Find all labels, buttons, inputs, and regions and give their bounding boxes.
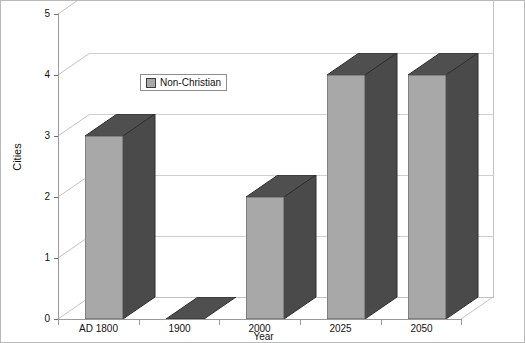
bar-2000 <box>246 197 284 319</box>
bar-2050 <box>408 75 446 319</box>
bar-3d-shape <box>85 114 160 319</box>
y-tickmark-3 <box>54 136 58 137</box>
y-axis-title: Cities <box>11 127 23 187</box>
y-axis-line <box>58 14 59 320</box>
y-tick-label-4: 4 <box>32 69 50 80</box>
y-tickmark-4 <box>54 75 58 76</box>
y-tick-label-1: 1 <box>32 252 50 263</box>
chart-legend: Non-Christian <box>140 74 227 91</box>
bar-3d-shape <box>327 53 402 319</box>
bar-ad-1800 <box>85 136 123 319</box>
x-axis-title: Year <box>1 331 525 342</box>
legend-swatch-non-christian <box>146 78 156 88</box>
bar-3d-shape <box>408 53 483 319</box>
y-tickmark-2 <box>54 197 58 198</box>
legend-label-non-christian: Non-Christian <box>160 77 221 88</box>
y-tickmark-5 <box>54 14 58 15</box>
wall-right-edge <box>493 0 494 297</box>
y-tick-label-0: 0 <box>32 313 50 324</box>
chart-frame: 5 4 3 2 1 0 Cities Non-Christian <box>0 0 525 343</box>
bar-3d-shape <box>246 175 321 319</box>
y-tickmark-1 <box>54 258 58 259</box>
bar-chart-plot-area: 5 4 3 2 1 0 Cities Non-Christian <box>1 1 525 343</box>
y-tick-label-5: 5 <box>32 8 50 19</box>
x-axis-line <box>58 319 462 320</box>
y-tick-label-3: 3 <box>32 130 50 141</box>
y-tick-label-2: 2 <box>32 191 50 202</box>
bar-2025 <box>327 75 365 319</box>
